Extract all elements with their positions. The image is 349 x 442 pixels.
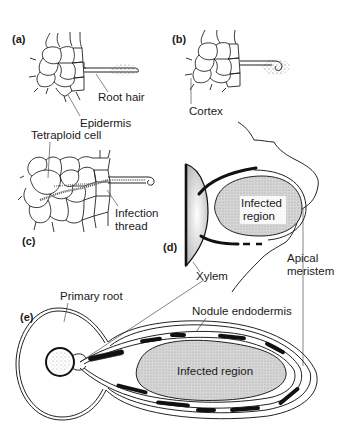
- label-epidermis: Epidermis: [80, 117, 131, 129]
- panel-b: (b) Cortex: [172, 30, 290, 117]
- panel-b-tag: (b): [172, 33, 186, 45]
- panel-a-cells: [29, 32, 86, 102]
- panel-b-cells: [185, 30, 240, 92]
- label-infected-region-d-1: Infected: [241, 197, 282, 209]
- panel-c-cells: [18, 150, 110, 232]
- label-tetraploid-cell: Tetraploid cell: [31, 129, 101, 141]
- label-infection-thread-2: thread: [115, 220, 148, 232]
- label-infected-region-e: Infected region: [177, 365, 253, 377]
- root-hair-b-curled: [240, 59, 290, 75]
- root-hair-a: [84, 64, 138, 76]
- infection-thread-c: [40, 177, 154, 200]
- xylem-d: [186, 164, 208, 266]
- panel-c: Tetraploid cell Infection: [18, 129, 158, 247]
- primary-root-leader: [64, 303, 68, 322]
- label-infection-thread-1: Infection: [115, 207, 158, 219]
- label-apical-meristem-2: meristem: [287, 265, 334, 277]
- label-root-hair: Root hair: [98, 91, 145, 103]
- epidermis-leader: [68, 95, 80, 116]
- label-cortex: Cortex: [189, 105, 223, 117]
- label-apical-meristem-1: Apical: [287, 252, 318, 264]
- panel-e: (e) Primary root: [16, 280, 317, 420]
- nodule-formation-diagram: (a) Root hair Epidermis (b): [0, 0, 349, 442]
- panel-a: (a) Root hair Epidermis: [12, 32, 145, 129]
- panel-c-tag: (c): [22, 235, 36, 247]
- label-primary-root: Primary root: [60, 290, 123, 302]
- label-xylem: Xylem: [196, 270, 228, 282]
- panel-d: Infected region (d) Xylem Apical meriste…: [163, 122, 334, 366]
- label-nodule-endodermis: Nodule endodermis: [192, 305, 292, 317]
- label-infected-region-d-2: region: [243, 210, 275, 222]
- tetraploid-leader: [48, 142, 50, 178]
- root-hair-leader: [96, 74, 108, 92]
- panel-a-tag: (a): [12, 33, 26, 45]
- vascular-strand-lower: [201, 236, 238, 244]
- panel-d-tag: (d): [163, 241, 177, 253]
